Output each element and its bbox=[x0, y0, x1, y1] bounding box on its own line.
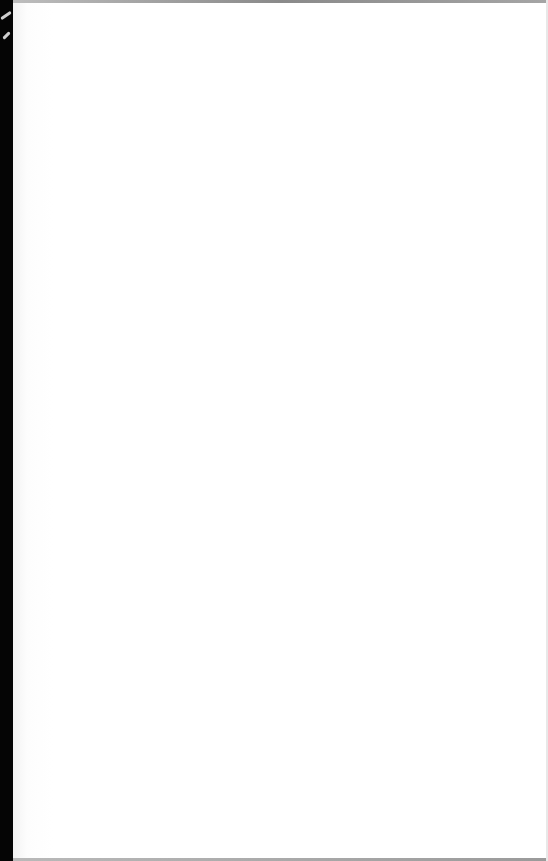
dark-left-edge bbox=[0, 0, 13, 861]
page-top-edge bbox=[13, 0, 548, 3]
edge-curl-mark bbox=[2, 31, 10, 39]
edge-curl-mark bbox=[0, 11, 12, 20]
blank-page bbox=[13, 0, 548, 861]
